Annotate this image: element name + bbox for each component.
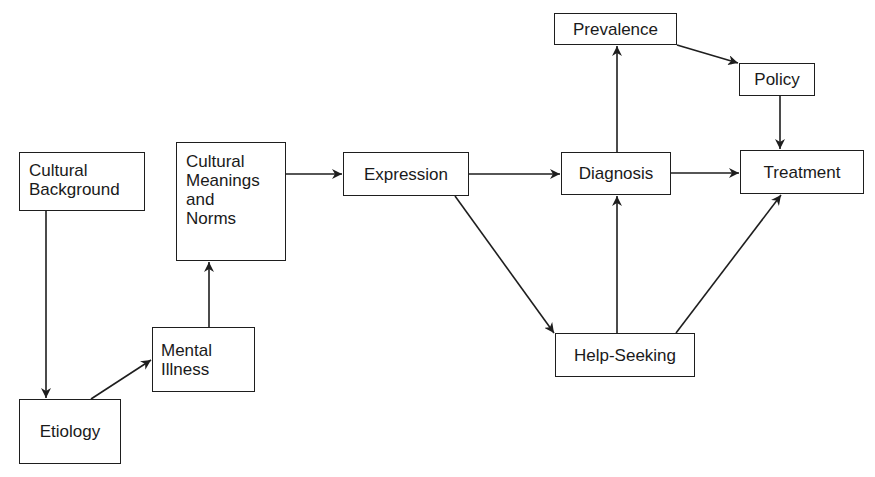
node-help-seeking: Help-Seeking: [555, 333, 695, 377]
node-label: Help-Seeking: [574, 346, 676, 365]
node-label-line: Meanings: [186, 171, 285, 190]
node-treatment: Treatment: [740, 150, 864, 194]
edge-etiology-to-mental-illness: [91, 360, 151, 399]
node-label: Etiology: [40, 422, 100, 441]
node-label: Policy: [754, 70, 799, 89]
node-etiology: Etiology: [19, 399, 121, 464]
node-label-line: Mental: [161, 341, 254, 360]
node-label-line: Illness: [161, 360, 254, 379]
node-prevalence: Prevalence: [554, 13, 677, 45]
node-label-line: and: [186, 190, 285, 209]
node-label-line: Cultural: [186, 152, 285, 171]
node-label: Diagnosis: [579, 164, 654, 183]
node-label: Prevalence: [573, 20, 658, 39]
node-label: Treatment: [764, 163, 841, 182]
node-diagnosis: Diagnosis: [561, 152, 671, 195]
node-cultural-meanings-and-norms: Cultural Meanings and Norms: [176, 142, 286, 261]
node-label-line: Norms: [186, 209, 285, 228]
node-label-line: Background: [29, 180, 144, 199]
edge-help-seeking-to-treatment: [676, 195, 781, 333]
edge-expression-to-help-seeking: [455, 196, 554, 333]
node-cultural-background: Cultural Background: [19, 152, 145, 211]
node-label-line: Cultural: [29, 161, 144, 180]
edge-prevalence-to-policy: [677, 45, 738, 63]
node-mental-illness: Mental Illness: [152, 327, 255, 392]
node-expression: Expression: [343, 152, 469, 196]
node-policy: Policy: [739, 63, 815, 96]
node-label: Expression: [364, 165, 448, 184]
